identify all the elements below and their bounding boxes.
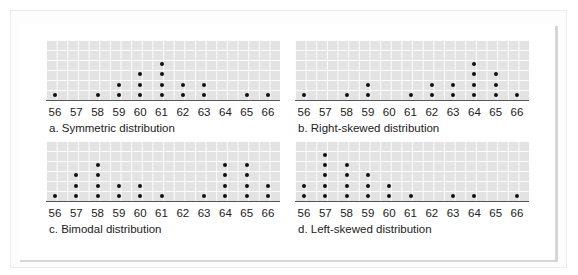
x-tick-label: 63 xyxy=(194,106,214,118)
plot-caption: c. Bimodal distribution xyxy=(49,223,162,235)
data-dot xyxy=(245,93,249,97)
data-dot xyxy=(366,83,370,87)
x-tick-label: 56 xyxy=(294,106,314,118)
x-axis-line xyxy=(46,100,280,101)
data-dot xyxy=(266,184,270,188)
data-dot xyxy=(181,93,185,97)
data-dot xyxy=(366,184,370,188)
x-tick-label: 61 xyxy=(152,207,172,219)
x-tick-label: 58 xyxy=(88,207,108,219)
data-dot xyxy=(117,83,121,87)
plot-grid xyxy=(295,141,529,201)
x-tick-label: 65 xyxy=(237,106,257,118)
x-axis-line xyxy=(46,201,280,202)
data-dot xyxy=(245,184,249,188)
data-dot xyxy=(430,83,434,87)
x-tick-label: 58 xyxy=(337,207,357,219)
x-tick-label: 66 xyxy=(258,106,278,118)
data-dot xyxy=(515,93,519,97)
data-dot xyxy=(53,194,57,198)
plot-grid xyxy=(295,40,529,100)
x-tick-label: 58 xyxy=(88,106,108,118)
x-tick-label: 62 xyxy=(173,106,193,118)
data-dot xyxy=(494,83,498,87)
x-tick-label: 62 xyxy=(173,207,193,219)
x-tick-label: 64 xyxy=(215,106,235,118)
plot-grid xyxy=(46,141,280,201)
x-tick-label: 64 xyxy=(215,207,235,219)
data-dot xyxy=(53,93,57,97)
x-tick-label: 56 xyxy=(45,106,65,118)
data-dot xyxy=(96,184,100,188)
plot-caption: d. Left-skewed distribution xyxy=(298,223,432,235)
frame-shadow-right xyxy=(555,26,558,262)
data-dot xyxy=(302,184,306,188)
x-tick-label: 56 xyxy=(294,207,314,219)
data-dot xyxy=(245,163,249,167)
data-dot xyxy=(117,194,121,198)
data-dot xyxy=(202,83,206,87)
x-tick-label: 61 xyxy=(401,106,421,118)
x-tick-label: 57 xyxy=(315,106,335,118)
x-axis-line xyxy=(295,201,529,202)
data-dot xyxy=(160,62,164,66)
x-tick-label: 57 xyxy=(66,207,86,219)
x-tick-label: 64 xyxy=(464,207,484,219)
x-tick-label: 66 xyxy=(507,106,527,118)
data-dot xyxy=(96,93,100,97)
x-tick-label: 59 xyxy=(358,106,378,118)
x-tick-label: 62 xyxy=(422,207,442,219)
x-tick-label: 63 xyxy=(194,207,214,219)
data-dot xyxy=(117,93,121,97)
data-dot xyxy=(138,83,142,87)
data-dot xyxy=(160,72,164,76)
data-dot xyxy=(366,93,370,97)
data-dot xyxy=(160,83,164,87)
data-dot xyxy=(430,93,434,97)
data-dot xyxy=(96,194,100,198)
data-dot xyxy=(345,184,349,188)
x-tick-label: 60 xyxy=(130,106,150,118)
data-dot xyxy=(409,93,413,97)
x-tick-label: 57 xyxy=(66,106,86,118)
data-dot xyxy=(302,93,306,97)
data-dot xyxy=(181,83,185,87)
data-dot xyxy=(345,194,349,198)
x-tick-label: 65 xyxy=(486,106,506,118)
data-dot xyxy=(451,83,455,87)
data-dot xyxy=(494,93,498,97)
x-tick-label: 60 xyxy=(379,106,399,118)
x-tick-label: 60 xyxy=(379,207,399,219)
x-tick-label: 60 xyxy=(130,207,150,219)
x-tick-label: 57 xyxy=(315,207,335,219)
x-tick-label: 59 xyxy=(109,207,129,219)
x-tick-label: 64 xyxy=(464,106,484,118)
plot-grid xyxy=(46,40,280,100)
x-tick-label: 59 xyxy=(358,207,378,219)
data-dot xyxy=(387,184,391,188)
x-tick-label: 61 xyxy=(152,106,172,118)
data-dot xyxy=(366,194,370,198)
data-dot xyxy=(160,194,164,198)
x-tick-label: 58 xyxy=(337,106,357,118)
x-tick-label: 65 xyxy=(486,207,506,219)
data-dot xyxy=(266,194,270,198)
x-tick-label: 56 xyxy=(45,207,65,219)
x-tick-label: 61 xyxy=(401,207,421,219)
x-tick-label: 66 xyxy=(258,207,278,219)
data-dot xyxy=(345,93,349,97)
data-dot xyxy=(96,163,100,167)
plot-caption: a. Symmetric distribution xyxy=(49,122,175,134)
data-dot xyxy=(245,194,249,198)
data-dot xyxy=(160,93,164,97)
data-dot xyxy=(302,194,306,198)
x-tick-label: 63 xyxy=(443,106,463,118)
data-dot xyxy=(409,194,413,198)
x-tick-label: 63 xyxy=(443,207,463,219)
x-tick-label: 66 xyxy=(507,207,527,219)
data-dot xyxy=(117,184,121,188)
x-tick-label: 59 xyxy=(109,106,129,118)
data-dot xyxy=(515,194,519,198)
data-dot xyxy=(138,184,142,188)
data-dot xyxy=(266,93,270,97)
